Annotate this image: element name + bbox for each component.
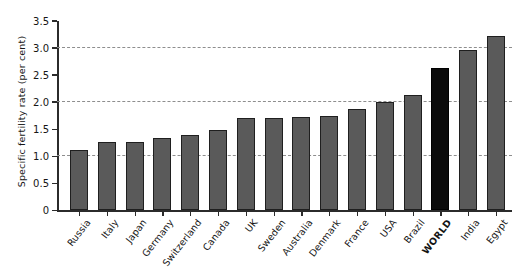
y-tick-label: 1.0	[33, 151, 49, 162]
x-tick-mark	[329, 212, 330, 216]
x-axis-label-italy: Italy	[99, 217, 121, 240]
x-axis-label-uk: UK	[243, 217, 260, 234]
x-tick-mark	[357, 212, 358, 216]
y-tick-mark	[52, 20, 57, 21]
bar-world	[431, 68, 449, 210]
y-tick-label: 2.0	[33, 97, 49, 108]
gridline-3	[57, 47, 512, 48]
x-axis-label-japan: Japan	[123, 217, 148, 245]
plot-area: 00.51.01.52.02.53.03.5	[57, 21, 512, 212]
y-tick-mark	[52, 101, 57, 102]
bar-germany	[153, 138, 171, 210]
bar-denmark	[320, 116, 338, 210]
bar-japan	[126, 142, 144, 211]
y-tick-label: 2.5	[33, 70, 49, 81]
y-tick-label: 1.5	[33, 124, 49, 135]
y-axis-line	[57, 21, 59, 212]
bar-france	[348, 109, 366, 210]
x-axis-label-russia: Russia	[65, 217, 93, 248]
x-axis-label-france: France	[342, 217, 370, 249]
x-axis-label-egypt: Egypt	[484, 217, 510, 246]
y-tick-mark	[52, 129, 57, 130]
bar-australia	[292, 117, 310, 211]
y-tick-label: 3.5	[33, 16, 49, 27]
x-tick-mark	[440, 212, 441, 216]
x-tick-mark	[190, 212, 191, 216]
bar-switzerland	[181, 135, 199, 211]
x-tick-mark	[107, 212, 108, 216]
x-axis-label-india: India	[459, 217, 482, 243]
x-tick-mark	[301, 212, 302, 216]
y-axis-title: Specific fertility rate (per cent)	[16, 17, 27, 207]
bar-india	[459, 50, 477, 211]
fertility-rate-bar-chart: Specific fertility rate (per cent) 00.51…	[0, 0, 517, 267]
x-tick-mark	[135, 212, 136, 216]
x-tick-mark	[385, 212, 386, 216]
x-axis-line	[57, 210, 512, 212]
bar-usa	[376, 102, 394, 210]
y-tick-label: 0.5	[33, 178, 49, 189]
y-tick-mark	[52, 183, 57, 184]
x-axis-label-brazil: Brazil	[401, 217, 426, 245]
y-tick-label: 0	[43, 205, 49, 216]
x-tick-mark	[246, 212, 247, 216]
x-tick-mark	[162, 212, 163, 216]
x-tick-mark	[496, 212, 497, 216]
bar-russia	[70, 150, 88, 211]
x-tick-mark	[79, 212, 80, 216]
bar-canada	[209, 130, 227, 210]
bar-uk	[237, 118, 255, 210]
y-tick-mark	[52, 74, 57, 75]
bar-italy	[98, 142, 116, 211]
y-tick-mark	[52, 47, 57, 48]
bar-sweden	[265, 118, 283, 210]
x-tick-mark	[413, 212, 414, 216]
x-axis-label-canada: Canada	[200, 217, 231, 253]
x-tick-mark	[274, 212, 275, 216]
bar-brazil	[404, 95, 422, 210]
y-tick-mark	[52, 156, 57, 157]
x-tick-mark	[218, 212, 219, 216]
bar-egypt	[487, 36, 505, 210]
y-tick-label: 3.0	[33, 43, 49, 54]
y-tick-mark	[52, 210, 57, 211]
x-axis-label-usa: USA	[378, 217, 399, 240]
x-tick-mark	[468, 212, 469, 216]
